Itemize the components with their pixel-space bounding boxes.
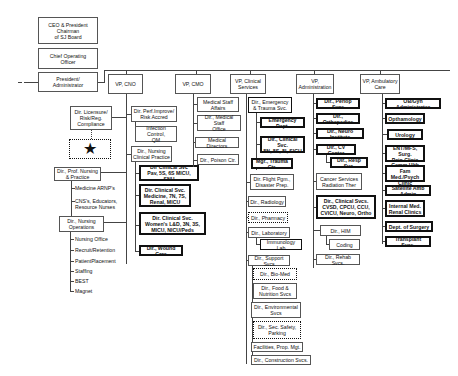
connector-line xyxy=(252,291,253,292)
medical-directors-box: Medical Directors xyxy=(195,137,239,148)
opthamology-box: Opthamology xyxy=(385,113,425,124)
connector-line xyxy=(326,155,327,162)
vp-clinical-services-box: VP, Clinical Services xyxy=(230,74,266,94)
coding-box: Coding xyxy=(329,239,360,250)
connector-line xyxy=(193,123,197,124)
emergency-trauma-box: Dir., Emergency & Trauma Svc. xyxy=(248,97,292,113)
connector-line xyxy=(104,222,126,223)
rehab-services-box: Dir., Rehab Svcs. xyxy=(316,254,360,265)
connector-line xyxy=(246,201,248,202)
connector-line xyxy=(70,271,74,272)
comm-health-box: Comm.Hlth Fam Med./Psych Clinic xyxy=(385,165,425,182)
dash-line xyxy=(18,82,22,83)
connector-line xyxy=(313,149,316,150)
prof-nursing-box: Dir., Prof. Nursing & Practice xyxy=(54,167,101,181)
bio-med-box: Dir., Bio-Med xyxy=(253,268,297,280)
cv-center-box: Dir., CV Center xyxy=(316,144,356,155)
connector-line xyxy=(104,70,105,83)
urology-box: Urology xyxy=(387,129,423,140)
ent-mfs-box: ENT/MFS, Surg. Pain Clinic xyxy=(385,145,425,162)
satellite-amb-admin-box: Satellite Amb Admin xyxy=(385,185,431,196)
ceo-box: CEO & President Chairman of SJ Board xyxy=(38,17,98,44)
radiology-box: Dir., Radiology xyxy=(248,196,286,207)
vp-bus-line xyxy=(104,70,450,71)
connector-line xyxy=(126,114,131,115)
vacant-position-box: ★ xyxy=(69,139,111,159)
nursing-office-label: Nursing Office xyxy=(75,236,108,242)
connector-line xyxy=(313,230,320,231)
connector-line xyxy=(112,117,126,118)
connector-line xyxy=(193,142,195,143)
pharmacy-box: Dir., Pharmacy xyxy=(248,212,288,223)
connector-line xyxy=(313,103,316,104)
connector-line xyxy=(246,217,248,218)
support-services-box: Dir., Support Svcs xyxy=(248,255,290,266)
licensure-compliance-box: Dir. Licensure/ Risk/Reg. Compliance xyxy=(70,106,112,130)
periop-services-box: Dir., Periop Svcs xyxy=(316,98,360,109)
star-icon: ★ xyxy=(83,141,97,157)
clinical-svc-womens-box: Dir. Clinical Svc. Women's L&D, 3N, 3S, … xyxy=(139,212,206,235)
neuro-institute-box: Dir., Neuro Institute xyxy=(316,128,364,139)
connector-line xyxy=(101,172,126,173)
dept-of-surgery-box: Dept. of Surgery xyxy=(385,221,433,232)
clinical-services-trunk-line xyxy=(246,94,247,364)
medical-staff-office-box: Dir., Medical Staff Office xyxy=(197,115,241,131)
connector-line xyxy=(246,232,248,233)
dotted-connector xyxy=(91,130,92,139)
connector-line xyxy=(246,260,248,261)
magnet-label: Magnet xyxy=(75,288,92,294)
connector-line xyxy=(313,133,316,134)
connector-line xyxy=(70,291,74,292)
environmental-services-box: Dir., Environmental Svcs xyxy=(251,302,301,318)
poison-center-box: Dir., Poison Ctr. xyxy=(197,154,239,165)
vp-administration-box: VP, Administration xyxy=(296,74,334,94)
perf-improve-box: Dir. Perf.Improve/ Risk Accred xyxy=(131,106,177,122)
clinical-svcs-cvsd-box: Dir., Clinical Svcs. CVSD, CPCU, CCU, CV… xyxy=(316,195,376,219)
connector-line xyxy=(313,181,316,182)
him-box: Dir., HIM xyxy=(320,225,361,236)
security-safety-parking-box: Dir., Sec. Safety, Parking xyxy=(253,321,301,339)
clinical-svc-pav-box: Dir Clinical Svc Pav, 5S, 6S MICU, SNU xyxy=(139,165,199,181)
connector-line xyxy=(126,154,131,155)
connector-line xyxy=(135,162,136,252)
medical-staff-affairs-box: Medical Staff Affairs xyxy=(197,97,239,112)
emergency-dept-box: Emergency Dept. xyxy=(260,117,305,128)
connector-line xyxy=(70,232,71,292)
facilities-box: Facilities, Prop. Mgt. xyxy=(251,342,303,352)
connector-line xyxy=(70,281,74,282)
cns-educators-label: CNS's, Educators, Resource Nurses xyxy=(75,198,117,210)
cno-trunk-line xyxy=(126,94,127,264)
laboratory-box: Dir., Laboratory xyxy=(248,227,290,238)
construction-services-box: Dir., Construction Svcs. xyxy=(251,355,311,365)
immunology-lab-box: Immunology Lab xyxy=(260,239,302,250)
connector-line xyxy=(382,153,385,154)
internal-med-box: Internal Med. Renal Clinics xyxy=(385,200,425,217)
nursing-clinical-practice-box: Dir., Nursing Clinical Practice xyxy=(131,146,172,162)
connector-line xyxy=(382,190,385,191)
clinical-svc-medicine-box: Dir. Clinical Svc. Medicine, 7N, 7S, Ren… xyxy=(139,184,191,207)
connector-line xyxy=(246,182,250,183)
connector-line xyxy=(382,118,385,119)
connector-line xyxy=(382,103,385,104)
orthopedics-box: Dir., Orthopedics xyxy=(316,113,360,124)
connector-line xyxy=(382,226,385,227)
staffing-label: Staffing xyxy=(75,268,93,274)
connector-line xyxy=(326,236,327,244)
connector-line xyxy=(382,241,385,242)
recruit-retention-label: Recruit/Retention xyxy=(75,247,115,253)
president-box: President/ Administrator xyxy=(38,72,98,92)
connector-line xyxy=(70,250,74,251)
connector-line xyxy=(70,261,74,262)
connector-line xyxy=(193,160,197,161)
vp-cmo-box: VP, CMO xyxy=(175,74,211,94)
transplant-services-box: Transplant Svcs. xyxy=(385,236,431,247)
nursing-operations-box: Dir., Nursing Operations xyxy=(59,216,104,232)
connector-line xyxy=(70,239,74,240)
wound-care-box: Dir., Wound Care xyxy=(139,245,183,256)
connector-line xyxy=(313,118,316,119)
connector-line xyxy=(382,208,385,209)
connector-line xyxy=(193,104,197,105)
infection-control-box: Infection Control, QM xyxy=(135,126,177,142)
ambulatory-trunk-line xyxy=(382,94,383,244)
medicine-arnps-label: Medicine ARNP's xyxy=(75,185,115,191)
